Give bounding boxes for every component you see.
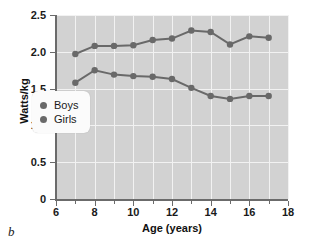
- legend-label: Girls: [54, 113, 77, 125]
- legend-item-boys: Boys: [40, 99, 78, 111]
- data-point-boys: [72, 51, 78, 57]
- data-point-boys: [130, 42, 136, 48]
- legend-item-girls: Girls: [40, 113, 78, 125]
- y-tick-mark: [50, 162, 55, 163]
- x-axis-title: Age (years): [56, 222, 288, 234]
- series-layer: [56, 15, 288, 199]
- x-tick-label: 8: [83, 206, 107, 218]
- data-point-girls: [188, 85, 194, 91]
- data-point-boys: [91, 43, 97, 49]
- legend-marker-icon: [40, 116, 47, 123]
- data-point-boys: [265, 35, 271, 41]
- x-tick-mark-minor: [153, 201, 154, 204]
- data-point-girls: [149, 74, 155, 80]
- panel-label: b: [8, 224, 15, 240]
- data-point-boys: [169, 35, 175, 41]
- y-tick-label: 0: [4, 193, 46, 205]
- x-tick-mark-minor: [191, 201, 192, 204]
- x-tick-mark-minor: [230, 201, 231, 204]
- y-tick-label: 2.5: [4, 9, 46, 21]
- data-point-boys: [111, 43, 117, 49]
- chart-figure: 00.51.01.52.02.5 681012141618 Watts/kg A…: [0, 0, 313, 247]
- data-point-boys: [246, 33, 252, 39]
- series-line-boys: [75, 30, 268, 54]
- y-axis-title: Watts/kg: [18, 56, 30, 146]
- y-tick-mark: [50, 89, 55, 90]
- y-tick-mark: [50, 15, 55, 16]
- x-tick-label: 14: [199, 206, 223, 218]
- data-point-girls: [246, 93, 252, 99]
- x-tick-mark-minor: [269, 201, 270, 204]
- x-tick-label: 18: [276, 206, 300, 218]
- legend-label: Boys: [54, 99, 78, 111]
- data-point-girls: [111, 71, 117, 77]
- series-line-girls: [75, 70, 268, 99]
- x-tick-label: 16: [237, 206, 261, 218]
- data-point-girls: [207, 93, 213, 99]
- x-tick-label: 6: [44, 206, 68, 218]
- data-point-boys: [207, 29, 213, 35]
- data-point-girls: [130, 73, 136, 79]
- data-point-girls: [72, 80, 78, 86]
- plot-area: [56, 15, 288, 199]
- x-tick-mark-minor: [75, 201, 76, 204]
- data-point-girls: [91, 67, 97, 73]
- data-point-girls: [227, 96, 233, 102]
- gridline-vertical: [288, 15, 289, 199]
- y-tick-mark: [50, 52, 55, 53]
- data-point-boys: [188, 27, 194, 33]
- data-point-boys: [227, 41, 233, 47]
- y-tick-label: 0.5: [4, 156, 46, 168]
- chart-legend: Boys Girls: [32, 91, 90, 133]
- x-tick-label: 10: [121, 206, 145, 218]
- data-point-boys: [149, 37, 155, 43]
- data-point-girls: [265, 93, 271, 99]
- data-point-girls: [169, 76, 175, 82]
- y-tick-mark: [50, 199, 55, 200]
- x-tick-label: 12: [160, 206, 184, 218]
- x-tick-mark-minor: [114, 201, 115, 204]
- legend-marker-icon: [40, 102, 47, 109]
